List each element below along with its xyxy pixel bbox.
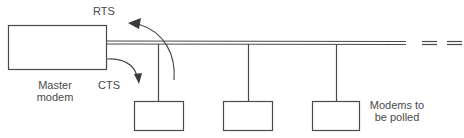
slave-modem-box-3	[313, 102, 360, 131]
rts-label: RTS	[93, 5, 115, 17]
slave-modem-box-2	[224, 102, 273, 131]
master-label-line2: modem	[27, 91, 83, 103]
cts-arrow	[107, 59, 137, 76]
rts-arrow	[138, 24, 174, 80]
slaves-label: Modems to be polled	[366, 99, 428, 123]
master-modem-box	[9, 26, 107, 70]
master-modem-label: Master modem	[27, 79, 83, 103]
master-label-line1: Master	[27, 79, 83, 91]
slaves-label-line1: Modems to	[366, 99, 428, 111]
slave-modem-box-1	[135, 102, 184, 131]
bus-line-upper	[106, 41, 406, 42]
cts-label: CTS	[98, 79, 120, 91]
bus-line-lower	[106, 44, 406, 45]
rts-arrowhead-icon	[128, 18, 141, 29]
slaves-label-line2: be polled	[366, 111, 428, 123]
cts-arrowhead-icon	[134, 73, 142, 84]
